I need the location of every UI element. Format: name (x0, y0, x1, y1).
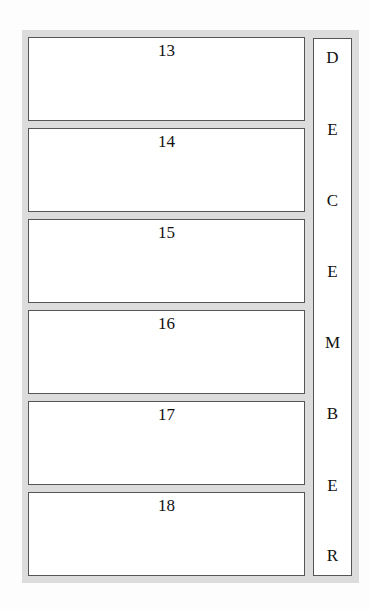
day-number: 18 (29, 496, 304, 516)
day-cell-15[interactable]: 15 (28, 219, 305, 303)
month-letter: D (314, 48, 351, 68)
month-letter: C (314, 191, 351, 211)
day-number: 14 (29, 132, 304, 152)
month-letter: R (314, 546, 351, 566)
day-cell-13[interactable]: 13 (28, 37, 305, 121)
month-letter: M (314, 333, 351, 353)
month-letter: E (314, 120, 351, 140)
day-cell-17[interactable]: 17 (28, 401, 305, 485)
month-letter: E (314, 476, 351, 496)
month-letter: B (314, 404, 351, 424)
day-cell-16[interactable]: 16 (28, 310, 305, 394)
month-letter: E (314, 262, 351, 282)
day-number: 13 (29, 41, 304, 61)
day-number: 17 (29, 405, 304, 425)
day-cell-14[interactable]: 14 (28, 128, 305, 212)
day-number: 15 (29, 223, 304, 243)
day-cell-18[interactable]: 18 (28, 492, 305, 576)
month-label-column: D E C E M B E R (313, 38, 352, 576)
day-number: 16 (29, 314, 304, 334)
